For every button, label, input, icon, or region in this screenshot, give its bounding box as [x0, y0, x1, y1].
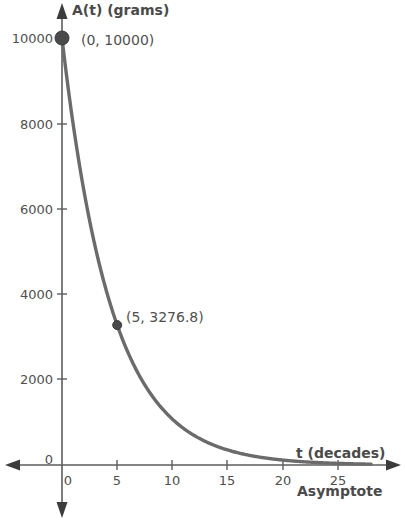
y-axis-down-arrow-icon — [57, 502, 68, 518]
x-axis-right-arrow-icon — [386, 460, 401, 471]
x-tick-label-25: 25 — [330, 474, 347, 487]
x-tick-label-0: 0 — [64, 474, 72, 487]
annotation-five-decade-point: (5, 3276.8) — [126, 310, 204, 324]
x-tick-label-10: 10 — [164, 474, 181, 487]
marker-five-decade-point — [113, 321, 122, 330]
x-tick-label-5: 5 — [113, 474, 121, 487]
y-tick-label-2000: 2000 — [0, 373, 53, 386]
marker-initial-point — [55, 31, 69, 45]
annotation-initial-point: (0, 10000) — [81, 33, 154, 47]
exponential-decay-chart: A(t) (grams) t (decades) Asymptote 10000… — [0, 0, 405, 523]
x-tick-label-15: 15 — [219, 474, 236, 487]
y-axis-title: A(t) (grams) — [72, 3, 169, 17]
x-tick-label-20: 20 — [275, 474, 292, 487]
y-tick-label-6000: 6000 — [0, 203, 53, 216]
y-tick-label-8000: 8000 — [0, 118, 53, 131]
y-tick-label-4000: 4000 — [0, 288, 53, 301]
x-axis-title: t (decades) — [296, 446, 385, 460]
y-tick-label-0: 0 — [0, 453, 53, 466]
y-tick-label-10000: 10000 — [0, 32, 53, 45]
decay-curve-path — [62, 38, 371, 464]
y-axis-up-arrow-icon — [57, 3, 68, 19]
